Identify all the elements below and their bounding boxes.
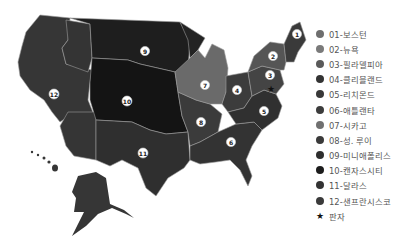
district-marker-9[interactable]: 9 bbox=[140, 46, 149, 55]
us-federal-reserve-districts-map: 1 2 3 4 5 6 7 8 9 10 11 12 ★ bbox=[0, 0, 310, 252]
legend-label: 12-샌프란시스코 bbox=[329, 195, 391, 207]
legend-label: 05-리치몬드 bbox=[329, 88, 375, 100]
legend-swatch-icon bbox=[316, 30, 324, 38]
svg-text:2: 2 bbox=[271, 53, 275, 60]
district-marker-6[interactable]: 6 bbox=[226, 137, 235, 146]
legend-swatch-icon bbox=[316, 181, 324, 189]
district-1-region bbox=[284, 22, 306, 62]
legend-item-11: 11-달라스 bbox=[316, 178, 399, 193]
legend-swatch-icon bbox=[316, 75, 324, 83]
svg-text:11: 11 bbox=[139, 150, 147, 157]
legend-swatch-icon bbox=[316, 90, 324, 98]
district-marker-2[interactable]: 2 bbox=[268, 51, 277, 60]
legend-label: 06-애틀랜타 bbox=[329, 104, 375, 116]
district-marker-12[interactable]: 12 bbox=[49, 89, 59, 99]
district-12-interior bbox=[62, 20, 92, 72]
district-marker-8[interactable]: 8 bbox=[196, 117, 205, 126]
legend-item-01: 01-보스턴 bbox=[316, 26, 399, 41]
svg-text:9: 9 bbox=[143, 48, 147, 55]
district-marker-7[interactable]: 7 bbox=[200, 80, 209, 89]
alaska-region bbox=[72, 172, 134, 236]
legend-swatch-icon bbox=[316, 106, 324, 114]
legend-swatch-icon bbox=[316, 136, 324, 144]
legend-label: 11-달라스 bbox=[329, 179, 367, 191]
legend-label: 01-보스턴 bbox=[329, 28, 367, 40]
svg-text:6: 6 bbox=[229, 139, 233, 146]
legend-swatch-icon bbox=[316, 121, 324, 129]
legend-swatch-icon bbox=[316, 166, 324, 174]
svg-text:1: 1 bbox=[295, 31, 299, 38]
legend-item-09: 09-미니애폴리스 bbox=[316, 148, 399, 163]
legend-label: 02-뉴욕 bbox=[329, 43, 359, 55]
legend-item-06: 06-애틀랜타 bbox=[316, 102, 399, 117]
legend-item-07: 07-시카고 bbox=[316, 117, 399, 132]
district-12-southwest bbox=[60, 112, 96, 160]
legend-label: 10-캔자스시티 bbox=[329, 164, 383, 176]
legend-item-02: 02-뉴욕 bbox=[316, 41, 399, 56]
legend-label: 판자 bbox=[329, 210, 345, 222]
legend-item-04: 04-클리블랜드 bbox=[316, 72, 399, 87]
legend-label: 09-미니애폴리스 bbox=[329, 149, 391, 161]
legend: 01-보스턴 02-뉴욕 03-필라델피아 04-클리블랜드 05-리치몬드 0… bbox=[316, 26, 399, 223]
legend-item-board: ★판자 bbox=[316, 208, 399, 223]
legend-swatch-icon bbox=[316, 45, 324, 53]
legend-item-08: 08-성. 루이 bbox=[316, 132, 399, 147]
svg-text:4: 4 bbox=[235, 87, 239, 94]
legend-item-05: 05-리치몬드 bbox=[316, 87, 399, 102]
district-marker-10[interactable]: 10 bbox=[122, 96, 132, 106]
board-star-icon: ★ bbox=[267, 84, 275, 94]
legend-label: 04-클리블랜드 bbox=[329, 73, 383, 85]
legend-label: 03-필라델피아 bbox=[329, 58, 383, 70]
legend-swatch-icon bbox=[316, 60, 324, 68]
legend-item-10: 10-캔자스시티 bbox=[316, 163, 399, 178]
svg-text:12: 12 bbox=[50, 91, 58, 98]
legend-label: 07-시카고 bbox=[329, 119, 367, 131]
legend-swatch-icon bbox=[316, 197, 324, 205]
legend-item-12: 12-샌프란시스코 bbox=[316, 193, 399, 208]
district-marker-5[interactable]: 5 bbox=[259, 106, 268, 115]
star-icon: ★ bbox=[316, 212, 324, 220]
hawaii-region bbox=[31, 151, 58, 172]
svg-text:7: 7 bbox=[203, 82, 207, 89]
legend-item-03: 03-필라델피아 bbox=[316, 56, 399, 71]
legend-label: 08-성. 루이 bbox=[329, 134, 372, 146]
svg-text:3: 3 bbox=[268, 72, 272, 79]
legend-swatch-icon bbox=[316, 151, 324, 159]
district-marker-11[interactable]: 11 bbox=[138, 148, 148, 158]
svg-text:10: 10 bbox=[123, 98, 131, 105]
svg-text:5: 5 bbox=[262, 108, 266, 115]
svg-text:8: 8 bbox=[199, 119, 203, 126]
district-marker-3[interactable]: 3 bbox=[265, 70, 274, 79]
district-marker-4[interactable]: 4 bbox=[232, 85, 241, 94]
district-marker-1[interactable]: 1 bbox=[292, 29, 301, 38]
